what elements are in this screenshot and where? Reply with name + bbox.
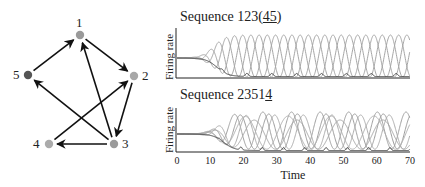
nodes (24, 31, 138, 148)
top-curve-neuron-2 (177, 35, 410, 77)
title-prefix: Sequence 123( (180, 9, 263, 24)
x-tick-10: 10 (205, 155, 215, 166)
node-1 (76, 31, 84, 39)
edge-5-to-1 (34, 40, 74, 71)
bottom-plot-ylabel: Firing rate (163, 107, 175, 153)
node-label-1: 1 (76, 16, 83, 29)
x-tick-30: 30 (272, 155, 282, 166)
bottom-curve-neuron-5 (177, 120, 410, 149)
node-label-5: 5 (13, 68, 20, 81)
edge-2-to-3 (116, 83, 132, 137)
x-tick-20: 20 (239, 155, 249, 166)
bottom-curve-neuron-1 (177, 112, 410, 149)
top-plot-title: Sequence 123(45) (180, 9, 281, 24)
bottom-curve-neuron-3 (177, 115, 410, 149)
x-axis-label: Time (281, 168, 306, 183)
title-underlined: 45 (263, 9, 277, 24)
bottom-plot-title: Sequence 23514 (180, 87, 272, 102)
node-2 (130, 72, 138, 80)
node-label-4: 4 (33, 137, 40, 150)
x-tick-40: 40 (305, 155, 315, 166)
x-tick-60: 60 (372, 155, 382, 166)
node-label-2: 2 (142, 69, 149, 82)
bottom-curve-neuron-2 (177, 114, 410, 149)
edges (34, 39, 132, 144)
x-tick-50: 50 (338, 155, 348, 166)
x-tick-0: 0 (175, 155, 180, 166)
network-diagram (0, 0, 170, 187)
title-suffix: ) (277, 9, 282, 24)
top-curve-neuron-3 (177, 35, 410, 77)
x-tick-70: 70 (405, 155, 415, 166)
node-5 (24, 71, 32, 79)
node-3 (110, 140, 118, 148)
axes (176, 108, 410, 152)
title-underlined: 4 (265, 87, 272, 102)
axes (176, 28, 410, 78)
top-curve-neuron-4-5 (177, 58, 410, 76)
top-curve-neuron-1 (177, 35, 410, 77)
bottom-curve-low (177, 134, 410, 151)
node-label-3: 3 (122, 137, 129, 150)
node-4 (45, 140, 53, 148)
top-plot-ylabel: Firing rate (163, 34, 175, 80)
bottom-curve-neuron-4 (177, 116, 410, 149)
title-prefix: Sequence 2351 (180, 87, 265, 102)
edge-4-to-2 (54, 81, 127, 140)
edge-1-to-2 (86, 39, 128, 71)
